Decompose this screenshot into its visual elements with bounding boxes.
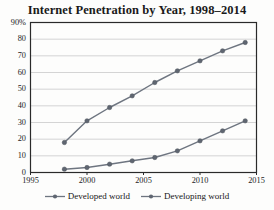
data-point (243, 40, 247, 44)
x-axis-tick-label: 1995 (14, 176, 48, 185)
data-point (243, 119, 247, 123)
legend-label-developing: Developing world (164, 191, 229, 201)
y-axis-tick-label: 30 (0, 118, 26, 127)
data-point (198, 139, 202, 143)
data-point (107, 105, 111, 109)
y-axis-tick-label: 10 (0, 151, 26, 160)
legend-label-developed: Developed world (68, 191, 130, 201)
series-line-1 (64, 121, 245, 169)
data-point (85, 165, 89, 169)
y-axis-tick-label: 20 (0, 134, 26, 143)
data-point (85, 119, 89, 123)
plot-area: 0102030405060708090%19952000200520102015 (0, 0, 274, 210)
data-point (130, 159, 134, 163)
x-axis-tick-label: 2010 (183, 176, 217, 185)
y-axis-tick-label: 40 (0, 101, 26, 110)
x-axis-tick-label: 2015 (240, 176, 274, 185)
chart-figure: Internet Penetration by Year, 1998–2014 … (0, 0, 274, 210)
legend-item-developing: Developing world (141, 191, 229, 201)
line-marker-symbol-icon (141, 192, 161, 201)
line-marker-symbol-icon (45, 192, 65, 201)
legend-item-developed: Developed world (45, 191, 130, 201)
y-axis-tick-label: 70 (0, 51, 26, 60)
data-point (220, 129, 224, 133)
data-point (107, 162, 111, 166)
data-point (175, 149, 179, 153)
y-axis-tick-label: 50 (0, 84, 26, 93)
data-point (130, 94, 134, 98)
plot-frame (31, 23, 257, 173)
data-point (62, 167, 66, 171)
y-axis-tick-label: 60 (0, 68, 26, 77)
series-line-0 (64, 43, 245, 143)
y-axis-tick-label: 80 (0, 34, 26, 43)
y-axis-tick-label: 90% (0, 18, 26, 27)
data-point (153, 80, 157, 84)
x-axis-tick-label: 2000 (70, 176, 104, 185)
data-point (220, 49, 224, 53)
data-point (153, 155, 157, 159)
data-point (198, 59, 202, 63)
chart-legend: Developed world Developing world (0, 191, 274, 201)
x-axis-tick-label: 2005 (127, 176, 161, 185)
data-point (175, 69, 179, 73)
data-point (62, 140, 66, 144)
